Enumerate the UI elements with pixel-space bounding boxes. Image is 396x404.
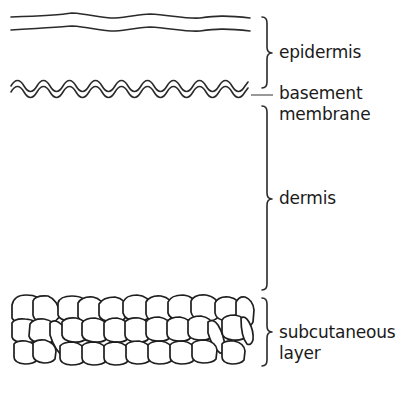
subcutaneous-bracket xyxy=(262,298,272,366)
label-subcutaneous-line1: subcutaneous xyxy=(279,322,396,343)
epidermis-surface-lines xyxy=(11,13,250,31)
label-epidermis: epidermis xyxy=(279,42,361,63)
epidermis-bracket xyxy=(262,17,272,88)
label-subcutaneous-line2: layer xyxy=(279,343,321,364)
basement-membrane-wave xyxy=(11,81,248,98)
dermis-bracket xyxy=(262,106,272,290)
label-basement-membrane-line2: membrane xyxy=(279,104,370,125)
subcutaneous-fat-cells xyxy=(12,295,254,365)
label-basement-membrane-line1: basement xyxy=(279,83,362,104)
label-dermis: dermis xyxy=(279,188,336,209)
